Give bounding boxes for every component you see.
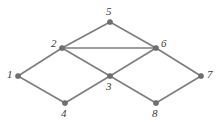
vertex-node-8[interactable] — [153, 100, 158, 105]
edge-1-4 — [18, 76, 65, 103]
vertices-group — [15, 19, 203, 105]
edge-3-8 — [110, 76, 156, 103]
graph-svg — [0, 0, 218, 125]
edge-6-7 — [156, 48, 201, 76]
edge-8-7 — [156, 76, 201, 103]
vertex-node-1[interactable] — [15, 73, 20, 78]
edge-2-3 — [62, 48, 110, 76]
edge-1-2 — [18, 48, 62, 76]
edge-4-3 — [65, 76, 110, 103]
vertex-label-2: 2 — [51, 38, 57, 49]
edge-3-6 — [110, 48, 156, 76]
vertex-node-7[interactable] — [198, 73, 203, 78]
graph-diagram-canvas: 12345678 — [0, 0, 218, 125]
vertex-node-6[interactable] — [153, 45, 158, 50]
vertex-label-6: 6 — [161, 38, 167, 49]
edge-5-6 — [110, 22, 156, 48]
edge-2-5 — [62, 22, 110, 48]
vertex-label-3: 3 — [106, 81, 112, 92]
vertex-label-4: 4 — [61, 108, 67, 119]
vertex-label-5: 5 — [106, 6, 112, 17]
vertex-node-2[interactable] — [59, 45, 64, 50]
vertex-label-1: 1 — [7, 69, 13, 80]
vertex-node-4[interactable] — [62, 100, 67, 105]
vertex-node-3[interactable] — [107, 73, 112, 78]
vertex-label-8: 8 — [152, 108, 158, 119]
vertex-label-7: 7 — [207, 69, 213, 80]
vertex-node-5[interactable] — [107, 19, 112, 24]
